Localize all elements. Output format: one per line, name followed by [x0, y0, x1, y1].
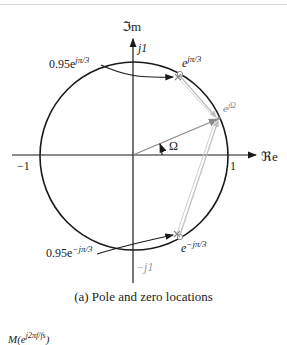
figure-caption: (a) Pole and zero locations: [0, 289, 287, 305]
imag-axis-label: ℑm: [122, 19, 141, 34]
neg-j1-label: −j1: [136, 260, 153, 274]
real-axis-label: ℜe: [261, 149, 278, 164]
unit-circle: [40, 62, 228, 250]
neg-one-label: −1: [17, 159, 30, 173]
zero-lower-label: e−jπ/3: [181, 239, 207, 255]
omega-angle-label: Ω: [169, 139, 178, 153]
upper-zero-vector: [180, 76, 216, 117]
upper-pole-vector: [178, 78, 214, 117]
pole-lower-label: 0.95e−jπ/3: [46, 244, 93, 260]
magnitude-label: M(ej2πf/fs): [8, 331, 49, 345]
zero-upper-label: ejπ/3: [182, 54, 202, 70]
lower-zero-vector: [180, 121, 218, 235]
omega-angle-arc: [160, 144, 162, 155]
omega-point: [217, 116, 220, 119]
pole-lower-pointer: [97, 235, 173, 254]
one-label: 1: [230, 159, 236, 173]
omega-point-label: ejΩ: [223, 101, 236, 114]
j1-label: j1: [136, 41, 147, 55]
pole-upper-label: 0.95ejπ/3: [49, 55, 90, 71]
lower-pole-vector: [177, 121, 215, 233]
